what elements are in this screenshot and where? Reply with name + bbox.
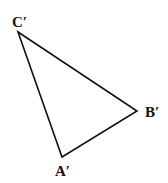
vertex-label-a-prime: A′ [55,164,70,179]
triangle-a-b-c [18,32,137,157]
vertex-label-b-prime: B′ [145,105,159,120]
vertex-label-c-prime: C′ [12,15,27,30]
triangle-diagram: C′ B′ A′ [0,0,168,183]
